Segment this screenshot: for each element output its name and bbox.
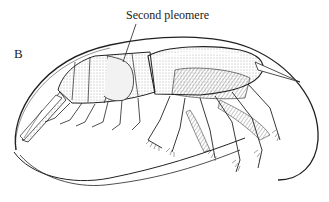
- antenna-lower-1: [14, 138, 245, 181]
- antenna-lower-2: [20, 150, 240, 186]
- callout-label: Second pleomere: [126, 8, 209, 23]
- panel-letter: B: [14, 46, 23, 62]
- shrimp-figure: B Second pleomere: [0, 0, 329, 202]
- shrimp-drawing: [0, 0, 329, 202]
